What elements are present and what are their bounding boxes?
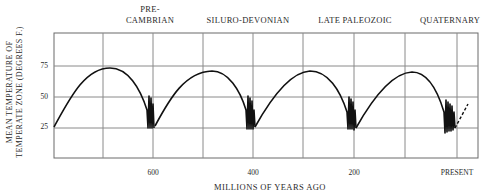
x-tick-400: 400 — [228, 168, 278, 177]
grid — [54, 33, 478, 158]
x-tick-200: 200 — [329, 168, 379, 177]
x-tick-present: PRESENT — [432, 168, 482, 177]
x-tick-600: 600 — [128, 168, 178, 177]
chart-plot — [0, 0, 489, 194]
temperature-curve — [54, 68, 455, 133]
x-axis-label: MILLIONS OF YEARS AGO — [214, 182, 326, 192]
